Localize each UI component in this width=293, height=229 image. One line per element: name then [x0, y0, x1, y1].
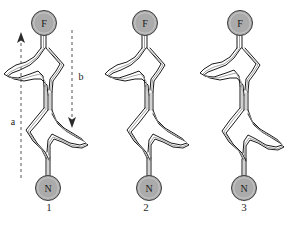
top-node-label: F	[41, 18, 47, 29]
arrow-b-label: b	[79, 71, 84, 82]
conformation-panel-2: F N 2	[97, 0, 195, 229]
panel-3-ribbon	[200, 32, 284, 178]
panel-1-arrow-a: a	[11, 32, 25, 178]
panel-1-number: 1	[0, 200, 98, 214]
panel-1-top-node: F	[32, 11, 57, 36]
panel-2-diagram: F N	[97, 0, 195, 205]
panel-1-arrow-b: b	[68, 30, 84, 128]
figure-caption	[0, 218, 293, 229]
panel-2-number: 2	[97, 200, 195, 214]
conformation-panel-3: F N 3	[195, 0, 293, 229]
panel-1-ribbon	[4, 32, 88, 178]
conformation-panel-1: a b F N 1	[0, 0, 98, 229]
panel-3-number: 3	[195, 200, 293, 214]
panel-3-diagram: F N	[195, 0, 293, 205]
panel-1-diagram: a b F N	[0, 0, 98, 205]
bottom-node-label: N	[240, 183, 247, 194]
molecular-conformations-figure: a b F N 1	[0, 0, 293, 229]
panel-3-top-node: F	[228, 11, 253, 36]
arrow-a-label: a	[11, 116, 16, 127]
panel-2-ribbon	[105, 32, 189, 178]
panel-2-top-node: F	[133, 11, 158, 36]
top-node-label: F	[142, 18, 148, 29]
bottom-node-label: N	[145, 183, 152, 194]
panel-3-bottom-node: N	[232, 176, 257, 201]
bottom-node-label: N	[44, 183, 51, 194]
panel-1-bottom-node: N	[36, 176, 61, 201]
top-node-label: F	[237, 18, 243, 29]
panel-2-bottom-node: N	[137, 176, 162, 201]
